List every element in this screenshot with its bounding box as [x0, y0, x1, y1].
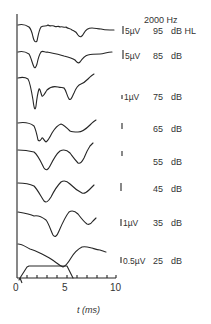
unit-label-95db: dB HL — [171, 26, 196, 36]
trace-65db — [18, 120, 96, 142]
unit-label-55db: dB — [171, 157, 182, 167]
trace-35db — [18, 211, 96, 236]
level-label-65db: 65 — [153, 124, 163, 134]
frequency-label: 2000 Hz — [144, 15, 178, 25]
unit-label-85db: dB — [171, 51, 182, 61]
level-label-75db: 75 — [153, 92, 163, 102]
scale-label-85db: 5µV — [125, 51, 140, 61]
trace-45db — [18, 181, 94, 202]
scale-label-25db: 0.5µV — [123, 256, 145, 266]
level-label-95db: 95 — [153, 26, 163, 36]
scale-label-35db: 1µV — [123, 218, 138, 228]
unit-label-45db: dB — [171, 184, 182, 194]
unit-label-75db: dB — [171, 92, 182, 102]
trace-55db — [18, 143, 93, 170]
level-label-35db: 35 — [153, 218, 163, 228]
trace-95db — [18, 25, 114, 42]
unit-label-65db: dB — [171, 124, 182, 134]
x-axis-label: t (ms) — [77, 305, 100, 315]
trace-85db — [18, 51, 112, 68]
stimulus-onset-marker — [20, 278, 22, 283]
level-label-55db: 55 — [153, 157, 163, 167]
trace-75db — [18, 74, 94, 109]
x-tick-label-0: 0 — [13, 283, 19, 293]
level-label-45db: 45 — [153, 184, 163, 194]
x-tick-label-5: 5 — [62, 283, 68, 293]
unit-label-25db: dB — [171, 256, 182, 266]
x-tick-label-10: 10 — [110, 283, 121, 293]
level-label-25db: 25 — [153, 256, 163, 266]
scale-label-95db: 5µV — [125, 26, 140, 36]
scale-label-75db: 1µV — [124, 92, 139, 102]
unit-label-35db: dB — [171, 218, 182, 228]
level-label-85db: 85 — [153, 51, 163, 61]
trace-25db — [18, 244, 106, 267]
